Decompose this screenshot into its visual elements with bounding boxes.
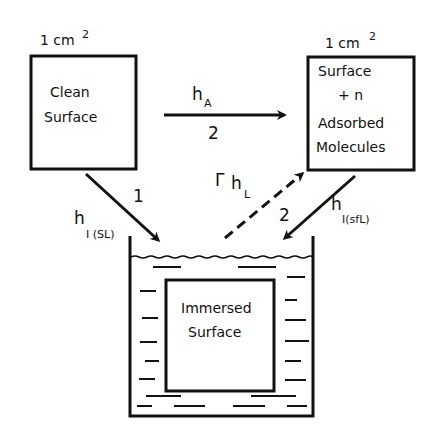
- adsorbed-line3: Adsorbed: [318, 115, 384, 131]
- immersion-adsorbed-path-number: 2: [279, 205, 290, 225]
- liquid-surface-line: [131, 256, 312, 258]
- clean-area-exponent: 2: [82, 28, 89, 41]
- adsorption-path-number: 2: [208, 123, 219, 143]
- adsorbed-line2: + n: [338, 87, 363, 103]
- immersed-line1: Immersed: [181, 300, 252, 316]
- adsorption-h-label: h: [192, 84, 203, 104]
- immersion-clean-path-number: 1: [133, 186, 144, 206]
- immersion-adsorbed-subscript: I(sfL): [342, 213, 370, 226]
- liquid-return-arrow: Γ h L: [215, 170, 302, 238]
- immersion-clean-h-label: h: [74, 208, 85, 228]
- adsorbed-line4: Molecules: [316, 139, 386, 155]
- immersion-adsorbed-h-label: h: [331, 194, 342, 214]
- immersion-clean-subscript: I (SL): [86, 228, 114, 241]
- liquid-gamma-prefix: Γ: [215, 170, 225, 190]
- clean-area-label: 1 cm: [40, 32, 75, 48]
- immersion-heat-diagram: 1 cm 2 Clean Surface 1 cm 2 Surface + n …: [0, 0, 439, 441]
- adsorption-arrow: h A 2: [164, 84, 284, 143]
- adsorbed-area-label: 1 cm: [325, 35, 360, 51]
- adsorbed-surface-box: 1 cm 2 Surface + n Adsorbed Molecules: [308, 30, 414, 170]
- clean-surface-box: 1 cm 2 Clean Surface: [31, 28, 136, 169]
- liquid-subscript: L: [244, 188, 251, 201]
- liquid-h-label: h: [231, 173, 242, 193]
- clean-line1: Clean: [50, 84, 90, 100]
- immersed-line2: Surface: [188, 324, 241, 340]
- adsorbed-area-exponent: 2: [369, 30, 376, 43]
- immersion-adsorbed-arrow: 2 h I(sfL): [279, 176, 370, 238]
- clean-line2: Surface: [44, 109, 97, 125]
- immersion-clean-arrow: 1 h I (SL): [74, 174, 158, 241]
- adsorbed-line1: Surface: [318, 63, 371, 79]
- immersed-surface-box: Immersed Surface: [166, 280, 274, 391]
- adsorption-subscript: A: [204, 97, 212, 110]
